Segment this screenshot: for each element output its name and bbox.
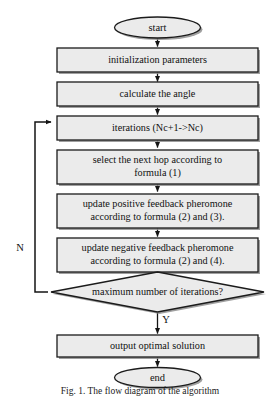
edge-label-no: N <box>16 242 24 253</box>
node-iterations: iterations (Nc+1->Nc) <box>57 116 260 142</box>
node-start: start <box>115 17 203 40</box>
select-hop-label-line2: formula (1) <box>134 167 181 179</box>
select-hop-label-line1: select the next hop according to <box>93 154 222 165</box>
end-label: end <box>150 372 166 383</box>
node-update-negative-feedback-pheromone: update negative feedback pheromone accor… <box>57 238 260 274</box>
positive-label-line2: according to formula (2) and (3). <box>90 211 224 223</box>
flowchart-canvas: start initialization parameters calculat… <box>0 0 276 396</box>
node-update-positive-feedback-pheromone: update positive feedback pheromone accor… <box>57 194 260 230</box>
node-calculate-the-angle: calculate the angle <box>57 82 260 108</box>
node-output-optimal-solution: output optimal solution <box>57 335 260 359</box>
angle-label: calculate the angle <box>120 88 196 99</box>
positive-label-line1: update positive feedback pheromone <box>83 198 233 209</box>
flowchart-diagram: start initialization parameters calculat… <box>0 0 276 396</box>
iterations-label: iterations (Nc+1->Nc) <box>112 122 203 134</box>
edge-label-yes: Y <box>162 314 170 325</box>
init-label: initialization parameters <box>108 54 207 65</box>
connector-decision-no-feedback-loop <box>35 122 51 292</box>
node-initialization-parameters: initialization parameters <box>57 48 260 74</box>
node-select-next-hop: select the next hop according to formula… <box>57 150 260 186</box>
negative-label-line1: update negative feedback pheromone <box>82 242 234 253</box>
node-decision-maximum-iterations: maximum number of iterations? <box>51 272 266 314</box>
output-label: output optimal solution <box>110 340 205 351</box>
start-label: start <box>148 22 166 33</box>
negative-label-line2: according to formula (2) and (4). <box>90 255 224 267</box>
figure-caption: Fig. 1. The flow diagram of the algorith… <box>61 386 220 396</box>
decision-label: maximum number of iterations? <box>92 286 223 297</box>
